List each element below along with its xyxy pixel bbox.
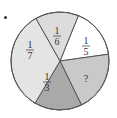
svg-text:1: 1 [55, 25, 60, 36]
svg-text:?: ? [84, 73, 89, 84]
svg-text:5: 5 [84, 46, 89, 57]
svg-text:1: 1 [45, 71, 50, 82]
svg-text:3: 3 [45, 82, 50, 93]
svg-text:7: 7 [28, 50, 33, 61]
svg-text:1: 1 [28, 39, 33, 50]
svg-text:1: 1 [84, 35, 89, 46]
pie-chart: 1 6 1 5 ? 1 3 1 7 [0, 0, 117, 118]
svg-text:6: 6 [55, 36, 60, 47]
slice-label-unknown: ? [84, 73, 89, 84]
